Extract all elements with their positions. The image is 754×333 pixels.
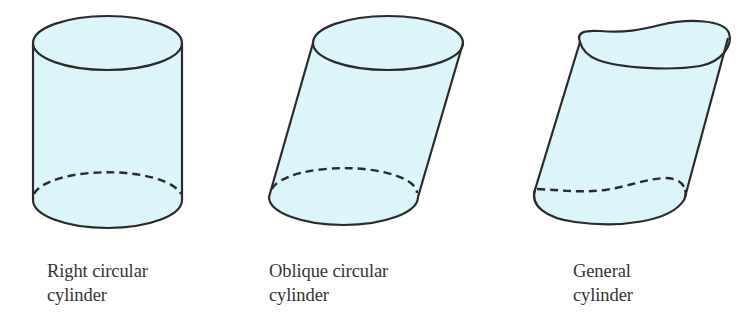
general-cylinder-shape [533,21,729,224]
caption-line: cylinder [47,283,148,307]
right-cylinder-top-face [33,16,182,70]
cylinder-types-figure: Right circular cylinder Oblique circular… [0,0,754,333]
caption-line: cylinder [573,283,633,307]
oblique-cylinder-body [270,43,463,225]
caption-line: cylinder [269,283,388,307]
oblique-circular-cylinder-caption: Oblique circular cylinder [269,259,388,307]
general-cylinder-top-face [579,21,730,68]
oblique-cylinder-top-face [313,16,463,70]
right-circular-cylinder-caption: Right circular cylinder [47,259,148,307]
oblique-circular-cylinder-shape [269,16,463,225]
general-cylinder-caption: General cylinder [573,259,633,307]
right-circular-cylinder-shape [33,16,182,228]
caption-line: General [573,259,633,283]
caption-line: Oblique circular [269,259,388,283]
caption-line: Right circular [47,259,148,283]
